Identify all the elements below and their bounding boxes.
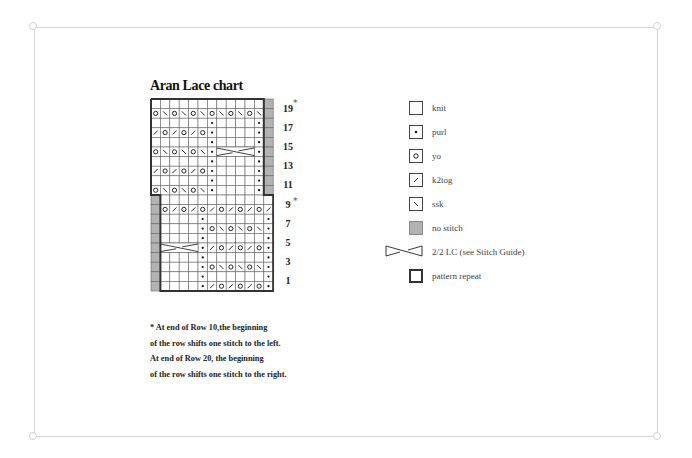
row-number-label: 15: [280, 141, 296, 152]
ssk-backslash-icon: [409, 197, 423, 211]
row-number-label: 13: [280, 160, 296, 171]
chart-title: Aran Lace chart: [150, 78, 243, 94]
frame-corner-ornament: [29, 22, 37, 30]
purl-dot-icon: [409, 125, 423, 139]
note-line: * At end of Row 10,the beginning: [150, 320, 287, 336]
row-number-label: 7: [280, 218, 296, 229]
knit-icon: [409, 101, 423, 115]
no-stitch-icon: [409, 221, 423, 235]
frame-corner-ornament: [653, 22, 661, 30]
k2tog-slash-icon: [409, 173, 423, 187]
cable-cross-icon: [385, 245, 423, 257]
knitting-chart: [150, 98, 274, 292]
row-number-label: 1: [280, 275, 296, 286]
note-line: of the row shifts one stitch to the righ…: [150, 367, 287, 383]
chart-grid: [150, 98, 274, 292]
row-number-label: 17: [280, 122, 296, 133]
chart-notes: * At end of Row 10,the beginning of the …: [150, 320, 287, 382]
row-number-label: 5: [280, 237, 296, 248]
frame-corner-ornament: [29, 432, 37, 440]
note-line: At end of Row 20, the beginning: [150, 351, 287, 367]
page-frame: [34, 27, 658, 437]
row-number-label: 11: [280, 179, 296, 190]
footnote-star: *: [293, 98, 298, 108]
frame-corner-ornament: [653, 432, 661, 440]
note-line: of the row shifts one stitch to the left…: [150, 336, 287, 352]
footnote-star: *: [293, 196, 298, 206]
row-number-label: 3: [280, 256, 296, 267]
repeat-box-icon: [409, 269, 423, 283]
yo-circle-icon: [409, 149, 423, 163]
